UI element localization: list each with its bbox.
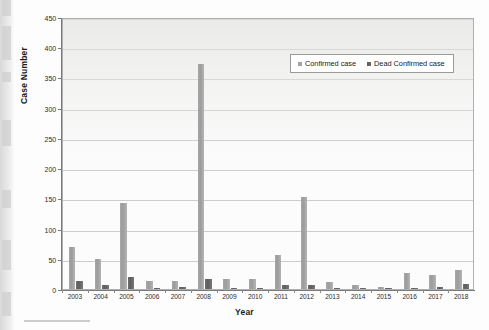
bar-2011-confirmed[interactable] [275,255,282,289]
x-tick-label-2012: 2012 [299,293,313,300]
bar-2009-confirmed[interactable] [223,279,230,289]
bar-2013-dead-confirmed[interactable] [334,288,341,289]
figure-container: Case Number 050100150200250300350400450 … [0,0,489,330]
bar-2013-confirmed[interactable] [326,282,333,289]
x-tick-mark-2013 [320,290,321,293]
x-tick-label-2018: 2018 [454,293,468,300]
y-tick-label-400: 400 [30,45,56,52]
x-tick-label-2006: 2006 [145,293,159,300]
x-tick-mark-2012 [294,290,295,293]
x-tick-label-2010: 2010 [248,293,262,300]
chart-legend: Confirmed case Dead Confirmed case [290,54,454,73]
bar-2017-dead-confirmed[interactable] [437,287,444,289]
y-tick-label-300: 300 [30,105,56,112]
bar-2012-dead-confirmed[interactable] [308,285,315,289]
y-tick-label-100: 100 [30,226,56,233]
bar-group-2003 [63,19,89,289]
x-tick-mark-2004 [88,290,89,293]
y-tick-label-350: 350 [30,75,56,82]
legend-entry-dead-confirmed[interactable]: Dead Confirmed case [367,59,445,68]
y-axis-title: Case Number [19,47,29,104]
caption-rule [24,320,90,322]
bar-group-2006 [140,19,166,289]
x-tick-label-2005: 2005 [119,293,133,300]
y-tick-mark-250 [58,139,61,140]
bar-2009-dead-confirmed[interactable] [231,288,238,289]
y-tick-mark-50 [58,260,61,261]
bar-2018-confirmed[interactable] [455,270,462,289]
y-tick-label-50: 50 [30,256,56,263]
y-tick-label-150: 150 [30,196,56,203]
bar-group-2005 [115,19,141,289]
bar-2014-dead-confirmed[interactable] [360,288,367,289]
x-tick-mark-2003 [62,290,63,293]
bar-2012-confirmed[interactable] [301,197,308,289]
bar-2006-dead-confirmed[interactable] [154,288,161,289]
legend-label-dead-confirmed: Dead Confirmed case [374,59,445,68]
x-tick-label-2014: 2014 [351,293,365,300]
x-tick-label-2016: 2016 [402,293,416,300]
legend-swatch-dead-confirmed-icon [367,62,371,66]
bar-2007-dead-confirmed[interactable] [179,287,186,289]
x-tick-label-2008: 2008 [196,293,210,300]
bar-2005-dead-confirmed[interactable] [128,277,135,289]
legend-label-confirmed: Confirmed case [305,59,356,68]
y-tick-mark-100 [58,230,61,231]
x-tick-label-2015: 2015 [377,293,391,300]
x-axis-title: Year [0,307,489,317]
bar-2005-confirmed[interactable] [120,203,127,289]
y-tick-mark-400 [58,48,61,49]
x-tick-mark-2016 [397,290,398,293]
bar-group-2010 [243,19,269,289]
bar-group-2009 [218,19,244,289]
bar-2016-dead-confirmed[interactable] [411,288,418,289]
bar-2010-confirmed[interactable] [249,279,256,289]
x-tick-mark-2006 [139,290,140,293]
bar-2004-dead-confirmed[interactable] [102,285,109,289]
bar-2015-dead-confirmed[interactable] [385,288,392,289]
y-tick-mark-300 [58,109,61,110]
x-tick-label-2007: 2007 [171,293,185,300]
bar-2018-dead-confirmed[interactable] [463,284,470,289]
bar-2015-confirmed[interactable] [378,287,385,289]
x-tick-mark-2009 [217,290,218,293]
bar-2007-confirmed[interactable] [172,281,179,289]
bar-2016-confirmed[interactable] [404,273,411,289]
y-tick-label-450: 450 [30,15,56,22]
bar-2010-dead-confirmed[interactable] [257,288,264,289]
x-tick-label-2017: 2017 [428,293,442,300]
legend-entry-confirmed[interactable]: Confirmed case [298,59,356,68]
bar-2003-dead-confirmed[interactable] [76,281,83,289]
y-tick-mark-200 [58,169,61,170]
bar-2017-confirmed[interactable] [429,275,436,290]
bar-group-2008 [192,19,218,289]
x-tick-label-2004: 2004 [93,293,107,300]
bar-2008-dead-confirmed[interactable] [205,279,212,289]
bar-group-2007 [166,19,192,289]
bar-2014-confirmed[interactable] [352,285,359,289]
x-tick-mark-2007 [165,290,166,293]
x-tick-mark-2011 [268,290,269,293]
y-tick-mark-350 [58,78,61,79]
y-tick-label-0: 0 [30,287,56,294]
x-tick-mark-2008 [191,290,192,293]
y-tick-label-250: 250 [30,135,56,142]
x-tick-mark-2014 [345,290,346,293]
bar-2006-confirmed[interactable] [146,281,153,289]
x-tick-label-2009: 2009 [222,293,236,300]
bar-2011-dead-confirmed[interactable] [282,285,289,289]
y-tick-mark-450 [58,18,61,19]
x-tick-mark-2005 [114,290,115,293]
y-tick-mark-0 [58,290,61,291]
bar-2004-confirmed[interactable] [95,259,102,289]
x-tick-mark-2017 [423,290,424,293]
x-tick-label-2003: 2003 [68,293,82,300]
y-tick-mark-150 [58,199,61,200]
bar-2008-confirmed[interactable] [198,64,205,289]
x-tick-mark-2018 [448,290,449,293]
x-tick-label-2013: 2013 [325,293,339,300]
x-tick-mark-2015 [371,290,372,293]
y-tick-label-200: 200 [30,166,56,173]
bar-group-2004 [89,19,115,289]
bar-2003-confirmed[interactable] [69,247,76,289]
